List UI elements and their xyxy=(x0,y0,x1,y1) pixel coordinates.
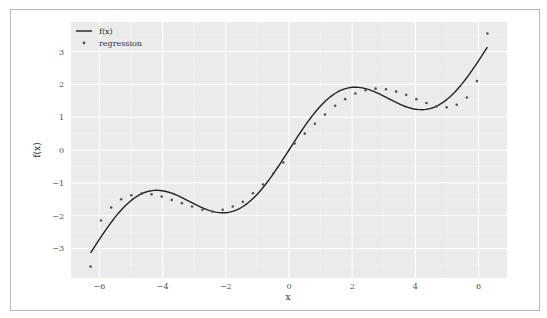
y-tick-label: −3 xyxy=(52,244,64,253)
regression-point xyxy=(364,89,367,92)
x-tick-label: 2 xyxy=(350,282,355,291)
x-tick-label: 6 xyxy=(476,282,481,291)
regression-point xyxy=(385,88,388,91)
regression-point xyxy=(354,92,357,95)
regression-point xyxy=(110,206,113,209)
regression-point xyxy=(425,102,428,105)
regression-point xyxy=(89,265,92,268)
regression-point xyxy=(282,161,285,164)
y-tick-label: 1 xyxy=(59,113,64,122)
regression-point xyxy=(130,194,133,197)
regression-point xyxy=(476,80,479,83)
regression-point xyxy=(324,113,327,116)
regression-point xyxy=(252,192,255,195)
regression-point xyxy=(160,195,163,198)
regression-point xyxy=(405,94,408,97)
chart: −6−4−20246 3210−1−2−3 x f(x) f(x) regres… xyxy=(0,0,547,318)
regression-point xyxy=(445,106,448,109)
regression-point xyxy=(303,132,306,135)
y-tick-label: 3 xyxy=(59,48,64,57)
regression-point xyxy=(140,192,143,195)
x-axis-label: x xyxy=(285,292,290,302)
x-tick-label: −2 xyxy=(220,282,232,291)
regression-point xyxy=(334,104,337,107)
regression-point xyxy=(486,32,489,35)
y-axis-label: f(x) xyxy=(32,142,42,157)
regression-point xyxy=(314,122,317,125)
regression-point xyxy=(211,210,214,213)
y-tick-label: 2 xyxy=(59,80,64,89)
regression-point xyxy=(415,98,418,101)
regression-point xyxy=(221,208,224,211)
regression-point xyxy=(231,205,234,208)
legend-label-regression: regression xyxy=(99,39,142,48)
regression-point xyxy=(242,201,245,204)
regression-point xyxy=(455,103,458,106)
regression-point xyxy=(344,98,347,101)
regression-point xyxy=(150,193,153,196)
regression-point xyxy=(181,202,184,205)
legend-label-fx: f(x) xyxy=(99,27,113,36)
regression-point xyxy=(191,205,194,208)
y-tick-label: −1 xyxy=(52,179,64,188)
x-tick-label: 0 xyxy=(286,282,291,291)
regression-point xyxy=(435,105,438,108)
x-axis-ticks: −6−4−20246 xyxy=(94,282,482,291)
regression-point xyxy=(293,142,296,145)
regression-point xyxy=(100,219,103,222)
x-tick-label: 4 xyxy=(413,282,418,291)
regression-point xyxy=(262,183,265,186)
regression-point xyxy=(170,199,173,202)
regression-point xyxy=(395,90,398,93)
regression-point xyxy=(272,172,275,175)
y-tick-label: −2 xyxy=(52,212,64,221)
regression-point xyxy=(466,96,469,99)
x-tick-label: −4 xyxy=(157,282,169,291)
regression-point xyxy=(201,208,204,211)
legend-dot-icon xyxy=(83,42,86,45)
x-tick-label: −6 xyxy=(94,282,106,291)
y-axis-ticks: 3210−1−2−3 xyxy=(52,48,64,254)
regression-point xyxy=(374,87,377,90)
regression-point xyxy=(120,198,123,201)
y-tick-label: 0 xyxy=(59,146,64,155)
